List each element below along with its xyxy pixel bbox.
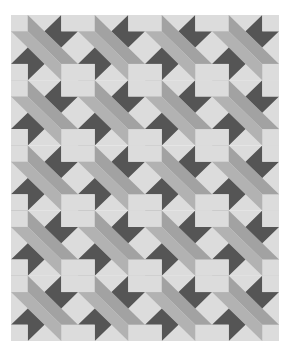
quilt-graphic [11,15,279,341]
quilt-block [145,145,212,210]
quilt-block [11,276,78,341]
quilt-block [11,145,78,210]
quilt-block [11,211,78,276]
quilt-pattern [11,15,279,341]
quilt-block [212,276,279,341]
quilt-block [78,276,145,341]
quilt-block [145,276,212,341]
quilt-block [145,80,212,145]
quilt-block [212,80,279,145]
quilt-block [212,211,279,276]
quilt-block [78,80,145,145]
quilt-block [78,145,145,210]
quilt-block [78,15,145,80]
quilt-block [212,15,279,80]
quilt-block [212,145,279,210]
quilt-block [11,15,78,80]
quilt-block [78,211,145,276]
quilt-block [145,15,212,80]
quilt-block [145,211,212,276]
quilt-block [11,80,78,145]
